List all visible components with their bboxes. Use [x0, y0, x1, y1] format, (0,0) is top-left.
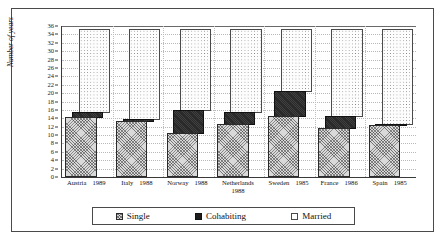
x-tick-label: Netherlands1988 — [213, 179, 264, 195]
bar-segment-single — [167, 133, 198, 177]
bar-segment-single — [318, 128, 349, 177]
legend-label: Married — [302, 211, 331, 221]
x-tick-year: 1988 — [139, 179, 152, 186]
bar-segment-single — [65, 117, 96, 177]
legend-item-cohabiting[interactable]: Cohabiting — [195, 211, 246, 221]
y-tick-label: 2 — [51, 165, 54, 172]
y-tick-mark — [55, 135, 58, 136]
x-tick-country: Netherlands — [222, 179, 254, 186]
y-tick-label: 0 — [51, 174, 54, 181]
x-tick-country: Italy — [121, 179, 133, 186]
y-axis-tick-labels: 024681012141618202224262830323436 — [12, 26, 58, 177]
bar-segment-married — [79, 29, 110, 113]
y-tick-label: 28 — [48, 56, 55, 63]
y-tick-mark — [55, 84, 58, 85]
legend-item-single[interactable]: Single — [116, 211, 150, 221]
x-tick-label: Italy1988 — [112, 179, 163, 187]
x-tick-country: Sweden — [269, 179, 290, 186]
x-tick-label: France1986 — [314, 179, 365, 187]
bar-segment-married — [230, 29, 261, 113]
bar-segment-single — [268, 116, 299, 177]
y-tick-label: 4 — [51, 157, 54, 164]
y-tick-mark — [55, 51, 58, 52]
legend-swatch-icon — [195, 213, 202, 220]
y-tick-label: 8 — [51, 140, 54, 147]
x-tick-country: Spain — [373, 179, 388, 186]
x-tick-label: Norway1988 — [162, 179, 213, 187]
y-tick-label: 22 — [48, 81, 55, 88]
y-tick-mark — [55, 109, 58, 110]
bar-segment-single — [369, 125, 400, 177]
y-tick-label: 6 — [51, 149, 54, 156]
y-tick-mark — [55, 93, 58, 94]
bar-group — [264, 26, 315, 177]
y-tick-label: 30 — [48, 48, 55, 55]
bar-segment-single — [116, 121, 147, 177]
y-tick-mark — [55, 160, 58, 161]
x-tick-year: 1988 — [213, 187, 264, 195]
x-axis-tick-labels: Austria1989Italy1988Norway1988Netherland… — [61, 179, 415, 203]
y-tick-label: 26 — [48, 65, 55, 72]
legend-label: Cohabiting — [206, 211, 246, 221]
y-tick-mark — [55, 143, 58, 144]
y-tick-mark — [55, 26, 58, 27]
y-tick-label: 16 — [48, 107, 55, 114]
y-tick-mark — [55, 177, 58, 178]
bar-segment-married — [180, 29, 211, 111]
bar-segment-cohabiting — [173, 110, 204, 134]
y-tick-mark — [55, 126, 58, 127]
x-tick-label: Sweden1985 — [263, 179, 314, 187]
y-tick-mark — [55, 42, 58, 43]
y-tick-label: 20 — [48, 90, 55, 97]
legend-item-married[interactable]: Married — [291, 211, 331, 221]
y-tick-mark — [55, 67, 58, 68]
legend-swatch-icon — [116, 213, 123, 220]
y-tick-label: 10 — [48, 132, 55, 139]
y-tick-mark — [55, 151, 58, 152]
y-tick-label: 18 — [48, 98, 55, 105]
bar-segment-married — [129, 29, 160, 120]
bar-group — [62, 26, 113, 177]
y-tick-label: 14 — [48, 115, 55, 122]
y-tick-label: 24 — [48, 73, 55, 80]
x-tick-label: Spain1985 — [364, 179, 415, 187]
y-tick-mark — [55, 76, 58, 77]
x-tick-label: Austria1989 — [61, 179, 112, 187]
x-tick-year: 1989 — [92, 179, 105, 186]
x-tick-country: Austria — [67, 179, 86, 186]
legend-label: Single — [127, 211, 150, 221]
x-tick-year: 1988 — [194, 179, 207, 186]
bar-group — [214, 26, 265, 177]
y-tick-mark — [55, 118, 58, 119]
chart-legend: SingleCohabitingMarried — [92, 207, 355, 225]
bar-group — [113, 26, 164, 177]
x-tick-year: 1985 — [394, 179, 407, 186]
y-tick-mark — [55, 168, 58, 169]
y-tick-mark — [55, 34, 58, 35]
x-tick-year: 1985 — [295, 179, 308, 186]
y-tick-mark — [55, 101, 58, 102]
bar-segment-single — [217, 124, 248, 177]
y-tick-label: 32 — [48, 40, 55, 47]
x-tick-country: Norway — [167, 179, 188, 186]
bar-group — [163, 26, 214, 177]
y-tick-label: 12 — [48, 123, 55, 130]
y-tick-mark — [55, 59, 58, 60]
x-tick-year: 1986 — [345, 179, 358, 186]
bar-segment-married — [281, 29, 312, 92]
legend-swatch-icon — [291, 213, 298, 220]
bar-group — [365, 26, 416, 177]
bar-segment-married — [382, 29, 413, 124]
chart-figure: Number of years 024681012141618202224262… — [11, 8, 434, 232]
y-tick-label: 34 — [48, 31, 55, 38]
y-tick-label: 36 — [48, 23, 55, 30]
x-tick-country: France — [321, 179, 339, 186]
bar-segment-married — [331, 29, 362, 117]
bar-segment-cohabiting — [274, 91, 305, 117]
bar-group — [315, 26, 366, 177]
plot-area — [61, 26, 416, 178]
